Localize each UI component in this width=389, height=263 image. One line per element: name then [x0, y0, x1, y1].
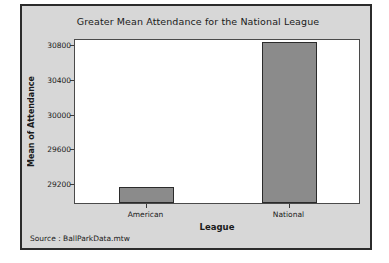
- y-axis-tick-label: 30400: [47, 76, 71, 85]
- x-axis-tick-mark: [146, 204, 147, 208]
- plot-area: [74, 39, 360, 204]
- x-axis-title: League: [74, 222, 360, 232]
- y-axis-title: Mean of Attendance: [24, 39, 38, 204]
- plot-inner: [75, 40, 359, 203]
- y-axis-tick-labels: 2920029600300003040030800: [40, 39, 71, 204]
- chart-title: Greater Mean Attendance for the National…: [22, 16, 374, 27]
- chart-figure: Greater Mean Attendance for the National…: [20, 4, 372, 250]
- x-axis-tick-marks: [74, 204, 360, 208]
- y-axis-tick-label: 29600: [47, 145, 71, 154]
- y-axis-tick-label: 29200: [47, 180, 71, 189]
- bar-american: [119, 187, 173, 203]
- source-footnote: Source : BallParkData.mtw: [30, 234, 130, 243]
- x-axis-tick-label: American: [128, 210, 164, 219]
- x-axis-tick-label: National: [273, 210, 304, 219]
- x-axis-tick-labels: AmericanNational: [74, 210, 360, 222]
- x-axis-tick-mark: [289, 204, 290, 208]
- bar-national: [262, 42, 316, 203]
- y-axis-tick-label: 30000: [47, 110, 71, 119]
- y-axis-tick-label: 30800: [47, 41, 71, 50]
- y-axis-title-label: Mean of Attendance: [27, 76, 36, 167]
